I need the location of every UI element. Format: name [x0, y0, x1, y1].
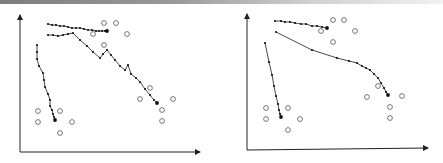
trajectory-point [99, 57, 101, 59]
trajectory-point [110, 54, 112, 56]
trajectory-point [75, 27, 77, 29]
trajectory-point [51, 109, 53, 111]
trajectory-point [300, 23, 302, 25]
trajectory-point [130, 73, 132, 75]
trajectory-point [49, 105, 51, 107]
target-circle [138, 97, 143, 102]
trajectory-point [139, 81, 141, 83]
trajectory-point [278, 109, 280, 111]
trajectory-point [59, 25, 61, 27]
trajectory-point [361, 65, 363, 67]
trajectory-point [264, 42, 266, 44]
target-circle [365, 95, 370, 100]
target-circle [58, 109, 63, 114]
plot-canvas [0, 0, 443, 163]
target-circle [400, 94, 405, 99]
trajectory-point [105, 29, 109, 33]
trajectory-point [63, 25, 65, 27]
series-targets [264, 18, 405, 133]
trajectory-point [321, 26, 323, 28]
trajectory-point [42, 72, 44, 74]
target-circle [91, 32, 96, 37]
trajectory-point [52, 113, 54, 115]
trajectory-point [52, 34, 54, 36]
trajectory-point [149, 94, 151, 96]
trajectory-point [380, 82, 382, 84]
trajectory-point [98, 30, 100, 32]
trajectory-point [53, 118, 57, 122]
target-circle [114, 21, 119, 26]
target-circle [331, 18, 336, 23]
trajectory-point [280, 20, 282, 22]
trajectory-point [268, 61, 270, 63]
target-circle [264, 117, 269, 122]
target-circle [160, 108, 165, 113]
trajectory-point [277, 103, 279, 105]
trajectory-point [71, 27, 73, 29]
target-circle [353, 29, 358, 34]
trajectory-point [311, 49, 313, 51]
right-panel [247, 14, 428, 150]
trajectory-point [365, 67, 367, 69]
series-trajectory-left [264, 42, 283, 119]
trajectory-point [325, 26, 329, 30]
trajectory-point [153, 99, 155, 101]
trajectory-point [95, 30, 97, 32]
target-circle [58, 131, 63, 136]
trajectory-point [155, 101, 159, 105]
trajectory-point [271, 74, 273, 76]
trajectory-point [336, 57, 338, 59]
trajectory-point [44, 86, 46, 88]
trajectory-point [62, 34, 64, 36]
series-trajectory-left [36, 44, 57, 122]
trajectory-point [305, 23, 307, 25]
trajectory-point [279, 113, 281, 115]
target-circle [388, 116, 393, 121]
trajectory-point [135, 77, 137, 79]
trajectory-point [348, 60, 350, 62]
trajectory-point [273, 85, 275, 87]
target-circle [286, 128, 291, 133]
trajectory-point [47, 23, 49, 25]
trajectory-point [92, 51, 94, 53]
target-circle [125, 32, 130, 37]
trajectory-point [316, 25, 318, 27]
trajectory-point [36, 44, 38, 46]
trajectory-point [311, 25, 313, 27]
trajectory-point [47, 34, 49, 36]
trajectory-point [87, 29, 89, 31]
trajectory-point [119, 65, 121, 67]
x-axis [247, 148, 428, 150]
trajectory-point [49, 99, 51, 101]
trajectory-point [284, 21, 286, 23]
trajectory-point [373, 73, 375, 75]
trajectory-point [275, 95, 277, 97]
trajectory-point [67, 33, 69, 35]
trajectory-point [279, 115, 283, 119]
target-circle [264, 106, 269, 111]
trajectory-point [102, 53, 104, 55]
trajectory-point [57, 35, 59, 37]
trajectory-point [294, 22, 296, 24]
trajectory-point [124, 69, 126, 71]
target-circle [102, 21, 107, 26]
trajectory-point [53, 116, 55, 118]
trajectory-point [275, 31, 277, 33]
trajectory-point [101, 30, 103, 32]
trajectory-point [274, 20, 276, 22]
target-circle [171, 97, 176, 102]
target-circle [298, 117, 303, 122]
trajectory-point [383, 87, 385, 89]
target-circle [376, 84, 381, 89]
trajectory-point [386, 93, 390, 97]
trajectory-point [51, 24, 53, 26]
target-circle [36, 109, 41, 114]
target-circle [388, 105, 393, 110]
trajectory-point [144, 88, 146, 90]
target-circle [36, 120, 41, 125]
trajectory-point [83, 28, 85, 30]
trajectory-point [369, 69, 371, 71]
target-circle [102, 43, 107, 48]
trajectory-point [289, 21, 291, 23]
target-circle [319, 29, 324, 34]
